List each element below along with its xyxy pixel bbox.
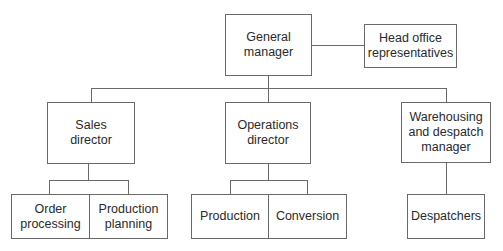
node-operations-director: Operations director bbox=[225, 102, 311, 164]
connector-warehousing-down bbox=[446, 163, 447, 194]
node-production: Production bbox=[191, 194, 269, 239]
node-order-processing: Order processing bbox=[11, 194, 90, 239]
connector-sales-bus bbox=[49, 180, 129, 181]
connector-operations-bus bbox=[230, 180, 308, 181]
node-despatchers: Despatchers bbox=[407, 194, 485, 239]
connector-level1-bus bbox=[91, 88, 447, 89]
connector-to-operations bbox=[268, 88, 269, 102]
node-conversion: Conversion bbox=[268, 194, 347, 239]
node-head-office-representatives: Head office representatives bbox=[364, 24, 457, 68]
connector-gm-down bbox=[268, 76, 269, 88]
node-warehousing-despatch-manager: Warehousing and despatch manager bbox=[401, 102, 491, 163]
connector-operations-down bbox=[268, 164, 269, 180]
node-sales-director: Sales director bbox=[47, 102, 135, 164]
connector-to-production bbox=[230, 180, 231, 194]
connector-to-order-processing bbox=[49, 180, 50, 194]
connector-to-sales bbox=[91, 88, 92, 102]
node-general-manager: General manager bbox=[225, 14, 312, 76]
connector-to-production-planning bbox=[128, 180, 129, 194]
connector-to-warehousing bbox=[446, 88, 447, 102]
connector-gm-headoffice bbox=[312, 45, 364, 46]
connector-to-conversion bbox=[307, 180, 308, 194]
node-production-planning: Production planning bbox=[89, 194, 168, 239]
connector-sales-down bbox=[88, 164, 89, 180]
